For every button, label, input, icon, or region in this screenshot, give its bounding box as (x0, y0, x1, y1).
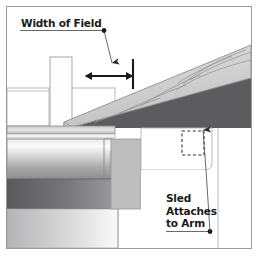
fence-block (50, 57, 72, 128)
base-band-light (7, 209, 118, 248)
sled-panel-group (141, 128, 231, 248)
base-band-dark (7, 179, 118, 209)
table-top-group (7, 126, 115, 138)
width-leader-line (104, 31, 112, 64)
label-width-of-field: Width of Field (21, 17, 102, 30)
roller-body (7, 139, 111, 179)
table-top-highlight (7, 134, 115, 138)
dimension-group (92, 59, 133, 89)
diagram-scene (0, 0, 260, 257)
table-top-strip (7, 126, 115, 134)
roller-group (7, 139, 119, 179)
label-sled-attaches-line-1: Sled (166, 192, 217, 205)
label-sled-attaches-line-2: Attaches (166, 205, 217, 218)
base-side-panel (111, 139, 141, 209)
diagram-root: Width of Field Sled Attaches to Arm (0, 0, 260, 257)
label-sled-attaches: Sled Attaches to Arm (166, 192, 217, 230)
label-sled-attaches-line-3: to Arm (166, 217, 217, 230)
sled-panel (141, 128, 212, 170)
width-leader-dot (102, 28, 107, 33)
angled-board-group (64, 45, 251, 128)
